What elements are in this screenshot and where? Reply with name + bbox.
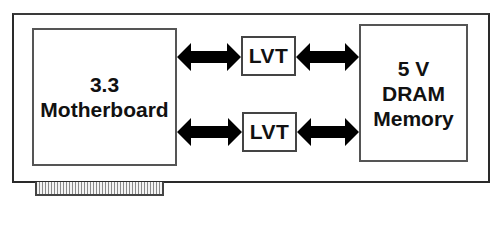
lvt-top-label: LVT [249, 44, 289, 68]
lvt-bottom-label: LVT [250, 120, 290, 144]
lvt-buffer-top: LVT [241, 36, 296, 76]
double-arrow-icon [297, 117, 359, 147]
double-arrow-icon [177, 42, 241, 72]
lvt-buffer-bottom: LVT [242, 112, 297, 152]
dram-memory-block: 5 V DRAM Memory [359, 24, 468, 162]
motherboard-label: Motherboard [40, 97, 168, 122]
motherboard-voltage-label: 3.3 [90, 72, 119, 97]
memory-label: Memory [373, 106, 454, 131]
double-arrow-icon [177, 117, 242, 147]
double-arrow-icon [296, 42, 359, 72]
memory-type-label: DRAM [382, 81, 445, 106]
edge-connector [35, 182, 164, 196]
memory-voltage-label: 5 V [398, 56, 430, 81]
motherboard-block: 3.3 Motherboard [32, 28, 177, 166]
